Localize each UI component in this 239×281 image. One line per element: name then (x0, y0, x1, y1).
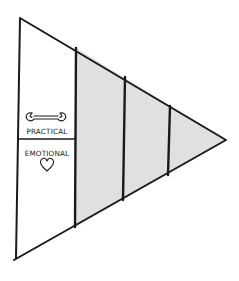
emotional-label: EMOTIONAL (20, 149, 74, 158)
practical-label: PRACTICAL (20, 127, 74, 136)
wrench-icon (26, 113, 66, 121)
stage-divider-1 (75, 48, 76, 227)
shaded-stages-region (76, 48, 226, 227)
heart-icon (40, 158, 54, 171)
funnel-triangle-diagram (0, 0, 239, 281)
